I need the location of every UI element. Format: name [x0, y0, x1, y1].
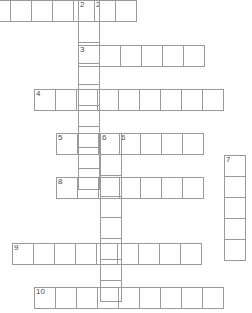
crossword-cell[interactable]	[55, 287, 77, 309]
crossword-cell[interactable]	[10, 0, 32, 22]
cell-letter	[55, 244, 75, 264]
entry-8-across: 8	[56, 177, 203, 199]
crossword-cell[interactable]: 7	[224, 155, 246, 177]
crossword-cell[interactable]	[162, 45, 184, 67]
crossword-cell[interactable]	[100, 217, 122, 239]
crossword-cell[interactable]	[119, 177, 141, 199]
cell-letter	[182, 288, 202, 308]
crossword-cell[interactable]	[118, 89, 140, 111]
cell-letter	[225, 219, 245, 239]
crossword-cell[interactable]	[97, 89, 119, 111]
crossword-cell[interactable]	[100, 154, 122, 176]
crossword-cell[interactable]	[224, 176, 246, 198]
cell-letter	[161, 288, 181, 308]
cell-letter	[162, 134, 182, 154]
crossword-cell[interactable]	[161, 177, 183, 199]
crossword-cell[interactable]	[31, 0, 53, 22]
crossword-cell[interactable]: 6	[119, 133, 141, 155]
crossword-cell[interactable]	[97, 287, 119, 309]
crossword-cell[interactable]: 4	[34, 89, 56, 111]
cell-letter	[101, 134, 121, 154]
crossword-cell[interactable]: 9	[12, 243, 34, 265]
crossword-cell[interactable]: 8	[56, 177, 78, 199]
cell-letter	[184, 46, 204, 66]
crossword-cell[interactable]	[54, 243, 76, 265]
cell-letter	[101, 197, 121, 217]
crossword-cell[interactable]	[117, 243, 139, 265]
cell-letter	[35, 90, 55, 110]
cell-letter	[56, 288, 76, 308]
crossword-cell[interactable]	[180, 243, 202, 265]
cell-letter	[225, 240, 245, 260]
cell-letter	[57, 178, 77, 198]
cell-letter	[98, 90, 118, 110]
crossword-cell[interactable]	[181, 89, 203, 111]
crossword-cell[interactable]	[182, 133, 204, 155]
crossword-cell[interactable]	[183, 45, 205, 67]
crossword-cell[interactable]: 5	[56, 133, 78, 155]
cell-letter	[34, 244, 54, 264]
crossword-cell[interactable]	[33, 243, 55, 265]
cell-letter	[203, 288, 223, 308]
crossword-cell[interactable]	[98, 177, 120, 199]
cell-letter	[162, 178, 182, 198]
cell-letter	[182, 90, 202, 110]
crossword-cell[interactable]	[77, 133, 99, 155]
crossword-cell[interactable]	[115, 0, 137, 22]
crossword-cell[interactable]	[141, 45, 163, 67]
crossword-cell[interactable]	[224, 239, 246, 261]
cell-letter	[183, 178, 203, 198]
crossword-cell[interactable]	[160, 287, 182, 309]
cell-letter	[78, 134, 98, 154]
cell-letter	[161, 90, 181, 110]
crossword-cell[interactable]: 6	[100, 133, 122, 155]
crossword-cell[interactable]	[224, 218, 246, 240]
crossword-cell[interactable]	[96, 243, 118, 265]
cell-letter	[183, 134, 203, 154]
cell-letter	[101, 155, 121, 175]
cell-letter	[141, 178, 161, 198]
cell-letter	[76, 244, 96, 264]
crossword-cell[interactable]: 10	[34, 287, 56, 309]
cell-letter	[32, 1, 52, 21]
crossword-cell[interactable]	[182, 177, 204, 199]
cell-letter	[225, 177, 245, 197]
crossword-cell[interactable]	[120, 45, 142, 67]
crossword-cell[interactable]	[139, 287, 161, 309]
crossword-cell[interactable]	[75, 243, 97, 265]
crossword-cell[interactable]	[55, 89, 77, 111]
cell-letter	[13, 244, 33, 264]
cell-letter	[121, 46, 141, 66]
crossword-cell[interactable]	[140, 177, 162, 199]
crossword-cell[interactable]	[76, 287, 98, 309]
crossword-cell[interactable]: 2	[78, 0, 100, 22]
crossword-cell[interactable]	[161, 133, 183, 155]
crossword-cell[interactable]	[77, 177, 99, 199]
crossword-cell[interactable]	[160, 89, 182, 111]
crossword-cell[interactable]	[138, 243, 160, 265]
crossword-cell[interactable]	[140, 133, 162, 155]
crossword-cell[interactable]	[76, 89, 98, 111]
crossword-cell[interactable]	[118, 287, 140, 309]
crossword-cell[interactable]	[181, 287, 203, 309]
crossword-cell[interactable]	[100, 196, 122, 218]
crossword-cell[interactable]	[159, 243, 181, 265]
cell-letter	[56, 90, 76, 110]
cell-letter	[140, 288, 160, 308]
crossword-cell[interactable]	[224, 197, 246, 219]
cell-letter	[119, 90, 139, 110]
cell-letter	[101, 218, 121, 238]
crossword-cell[interactable]	[52, 0, 74, 22]
crossword-cell[interactable]	[78, 21, 100, 43]
crossword-cell[interactable]: 3	[78, 45, 100, 67]
crossword-cell[interactable]	[202, 287, 224, 309]
cell-letter	[35, 288, 55, 308]
crossword-cell[interactable]	[99, 45, 121, 67]
cell-letter	[99, 178, 119, 198]
crossword-cell[interactable]	[139, 89, 161, 111]
crossword-cell[interactable]	[202, 89, 224, 111]
cell-letter	[77, 90, 97, 110]
entry-6-down: 6	[100, 133, 122, 301]
crossword-grid: 223456678910	[0, 0, 252, 313]
cell-letter	[203, 90, 223, 110]
